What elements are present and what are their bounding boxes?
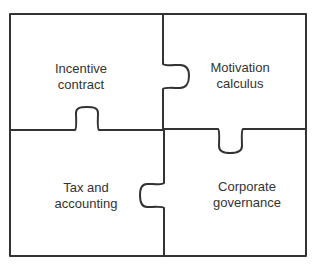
divider-horizontal-left <box>10 107 163 130</box>
label-line: Tax and <box>55 180 118 196</box>
label-line: Incentive <box>55 61 107 77</box>
label-line: governance <box>213 195 281 211</box>
piece-label-incentive-contract: Incentive contract <box>55 61 107 93</box>
divider-vertical-bottom <box>140 130 164 256</box>
puzzle-diagram <box>0 0 318 270</box>
label-line: contract <box>55 77 107 93</box>
piece-label-motivation-calculus: Motivation calculus <box>210 60 269 92</box>
piece-label-tax-accounting: Tax and accounting <box>55 180 118 212</box>
label-line: Motivation <box>210 60 269 76</box>
piece-label-corporate-governance: Corporate governance <box>213 179 281 211</box>
label-line: Corporate <box>213 179 281 195</box>
label-line: calculus <box>210 76 269 92</box>
label-line: accounting <box>55 196 118 212</box>
puzzle-outer-frame <box>10 14 306 256</box>
divider-horizontal-right <box>163 129 306 153</box>
divider-vertical-top <box>163 14 189 130</box>
